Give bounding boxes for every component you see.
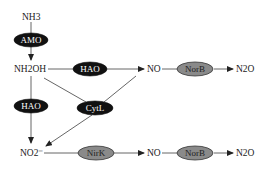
enzyme-hao-left: HAO	[14, 99, 48, 113]
enzyme-hao-top: HAO	[73, 62, 107, 76]
compound-no-bottom: NO	[147, 148, 161, 158]
edge-cytl-no2	[46, 115, 92, 146]
enzyme-cytl: CytL	[77, 101, 113, 115]
compound-nh2oh: NH2OH	[14, 64, 46, 74]
edge-no-cytl	[104, 76, 136, 102]
compound-n2o-bottom: N2O	[236, 148, 255, 158]
svg-text:HAO: HAO	[80, 64, 100, 74]
svg-text:NorB: NorB	[185, 148, 205, 158]
svg-text:HAO: HAO	[21, 101, 41, 111]
enzyme-amo: AMO	[14, 33, 48, 47]
compound-no2: NO2⁻	[20, 148, 43, 158]
nitrogen-pathway-diagram: NH3 NH2OH NO N2O NO2⁻ NO N2O AMO HAO Nor…	[0, 0, 264, 171]
compound-nh3: NH3	[22, 12, 41, 22]
svg-text:AMO: AMO	[20, 35, 42, 45]
enzyme-nirk: NirK	[78, 146, 114, 160]
svg-text:CytL: CytL	[86, 103, 105, 113]
enzyme-norb-top: NorB	[177, 62, 213, 76]
svg-text:NirK: NirK	[87, 148, 106, 158]
edge-nh2oh-cytl	[44, 78, 86, 102]
compound-n2o-top: N2O	[236, 64, 255, 74]
svg-text:NorB: NorB	[185, 64, 205, 74]
compound-no-top: NO	[147, 64, 161, 74]
enzyme-norb-bottom: NorB	[177, 146, 213, 160]
